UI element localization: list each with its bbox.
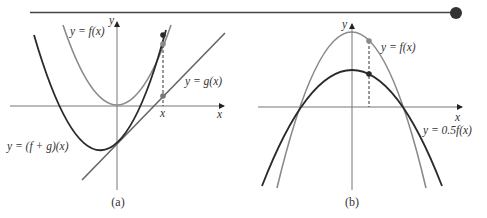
- axis-y-label: y: [108, 14, 115, 27]
- point-x-label: x: [159, 107, 166, 119]
- point-f: [160, 41, 166, 47]
- caption-a: (a): [111, 195, 124, 209]
- axis-x-label: x: [454, 111, 461, 123]
- f-label: y = f(x): [69, 25, 105, 38]
- figure: y x x y = f(x) y = g(x) y = (f + g)(x) (…: [0, 0, 487, 218]
- sum-label: y = (f + g)(x): [6, 140, 69, 153]
- slider[interactable]: [30, 7, 462, 19]
- slider-knob[interactable]: [450, 7, 462, 19]
- point-g: [160, 93, 166, 99]
- axis-y-label: y: [341, 18, 348, 31]
- panel-a: y x x y = f(x) y = g(x) y = (f + g)(x) (…: [6, 14, 225, 209]
- g-label: y = g(x): [184, 75, 222, 88]
- point-f: [366, 38, 372, 44]
- half-label: y = 0.5f(x): [422, 124, 472, 137]
- axis-x-label: x: [216, 108, 223, 120]
- point-half-f: [366, 71, 372, 77]
- caption-b: (b): [345, 195, 359, 209]
- f-label: y = f(x): [380, 41, 416, 54]
- point-sum: [160, 32, 166, 38]
- panel-b: y x y = f(x) y = 0.5f(x) (b): [258, 18, 472, 209]
- curve-sum: [34, 30, 166, 150]
